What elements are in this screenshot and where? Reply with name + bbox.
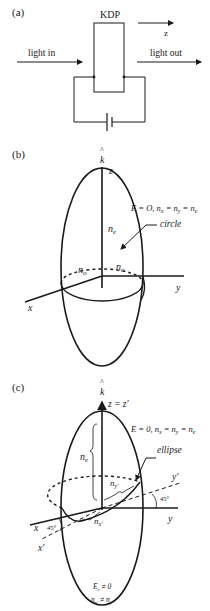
kdp-crystal	[94, 23, 124, 92]
circuit-wire-right	[112, 77, 145, 122]
light-in-label: light in	[28, 48, 55, 58]
y-axis-label-c: y	[167, 513, 173, 524]
kdp-label: KDP	[100, 9, 120, 20]
panel-b: (b) ^ k z E = O, nx = ny = ne ne circle …	[12, 146, 198, 366]
z-label: z	[164, 28, 168, 38]
circle-label: circle	[160, 219, 181, 229]
ne-label: ne	[108, 223, 116, 236]
x-axis-c	[30, 508, 102, 525]
x-axis-label: x	[27, 302, 33, 313]
x-prime-label: x′	[37, 543, 45, 553]
no-right-label: no	[116, 261, 125, 274]
ne-label-c: ne	[80, 451, 88, 464]
circuit-wire-left	[74, 77, 107, 122]
panel-a-label: (a)	[12, 6, 25, 19]
condition-index: nx′ ≠ ny′	[91, 595, 114, 605]
k-label: k	[100, 154, 105, 165]
ny-prime-label: ny′	[110, 478, 119, 489]
panel-c-label: (c)	[12, 381, 25, 394]
ellipse-label: ellipse	[157, 445, 182, 455]
equation-c: E = 0, nx = ny = ne	[130, 424, 196, 435]
angle-label-x: 45°	[47, 524, 57, 531]
angle-label-y: 45°	[160, 495, 170, 502]
angle-arc-y	[152, 494, 157, 508]
ne-brace	[90, 424, 97, 500]
circle-pointer-arrow	[121, 225, 157, 249]
electro-optic-figure: (a) KDP z light in light out (b) ^ k z E…	[0, 0, 210, 611]
ny-prime-brace	[104, 486, 134, 500]
panel-a: (a) KDP z light in light out	[12, 6, 201, 131]
z-prime-label: z = z′	[107, 399, 130, 409]
x-axis-label-c: x	[33, 522, 39, 533]
condition-field: Ez ≠ 0	[92, 582, 111, 592]
nx-prime-label: nx′	[94, 516, 103, 527]
equation-b: E = O, nx = ny = ne	[130, 203, 198, 214]
no-left-label: no	[78, 264, 87, 277]
panel-b-label: (b)	[12, 148, 25, 161]
light-out-label: light out	[150, 48, 182, 58]
k-label-c: k	[100, 386, 105, 397]
y-axis-label: y	[175, 282, 181, 293]
electrode-right	[123, 76, 126, 79]
panel-c: (c) ^ k z = z′ E = 0, nx = ny = ne ne el…	[12, 378, 196, 605]
electrode-left	[93, 76, 96, 79]
y-prime-label: y′	[171, 472, 179, 482]
